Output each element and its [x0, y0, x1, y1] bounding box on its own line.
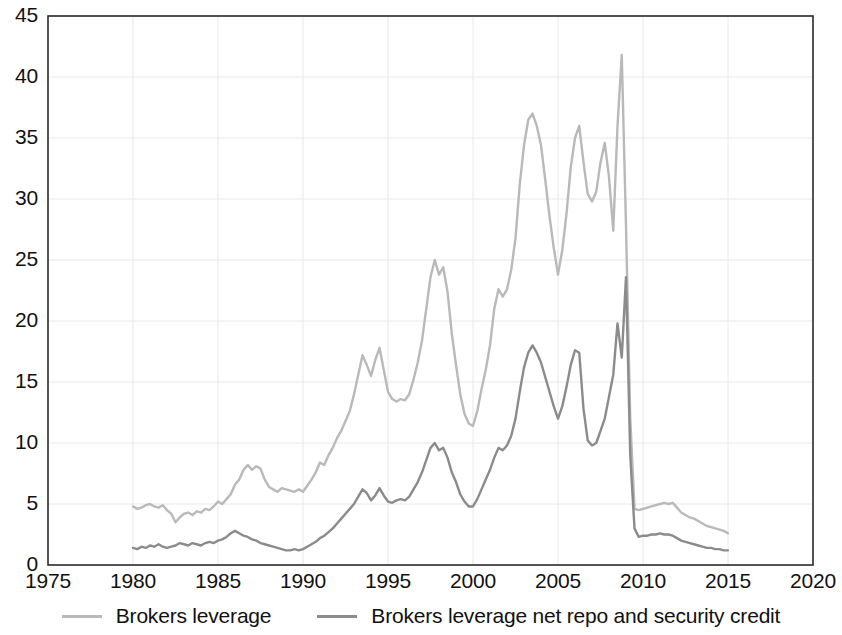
- gridlines: [48, 16, 813, 565]
- legend-item-1[interactable]: Brokers leverage: [62, 604, 272, 628]
- y-axis-tick-label: 25: [0, 247, 38, 271]
- x-axis-tick-label: 1980: [88, 569, 178, 593]
- chart-legend: Brokers leverageBrokers leverage net rep…: [0, 600, 842, 632]
- x-axis-tick-label: 2005: [513, 569, 603, 593]
- y-axis-tick-label: 10: [0, 430, 38, 454]
- plot-frame: [48, 16, 813, 565]
- chart-plot-area: [0, 0, 842, 635]
- x-axis-tick-label: 1985: [173, 569, 263, 593]
- legend-item-2[interactable]: Brokers leverage net repo and security c…: [317, 604, 780, 628]
- x-axis-tick-label: 2015: [683, 569, 773, 593]
- y-axis-tick-label: 35: [0, 125, 38, 149]
- x-axis-tick-label: 1990: [258, 569, 348, 593]
- y-axis-tick-label: 20: [0, 308, 38, 332]
- data-series: [133, 55, 728, 550]
- legend-item-label: Brokers leverage: [116, 604, 272, 628]
- legend-line-swatch-icon: [62, 615, 102, 618]
- x-axis-tick-label: 1995: [343, 569, 433, 593]
- chart-container: 051015202530354045 197519801985199019952…: [0, 0, 842, 635]
- x-axis-tick-label: 2000: [428, 569, 518, 593]
- legend-line-swatch-icon: [317, 615, 357, 618]
- y-axis-tick-label: 15: [0, 369, 38, 393]
- y-axis-tick-label: 45: [0, 3, 38, 27]
- series-line-1: [133, 55, 728, 533]
- axis-lines: [48, 16, 813, 565]
- y-axis-tick-label: 40: [0, 64, 38, 88]
- y-axis-tick-label: 30: [0, 186, 38, 210]
- x-axis-tick-label: 2020: [768, 569, 842, 593]
- legend-item-label: Brokers leverage net repo and security c…: [371, 604, 780, 628]
- x-axis-tick-label: 2010: [598, 569, 688, 593]
- x-axis-tick-label: 1975: [3, 569, 93, 593]
- y-axis-tick-label: 5: [0, 491, 38, 515]
